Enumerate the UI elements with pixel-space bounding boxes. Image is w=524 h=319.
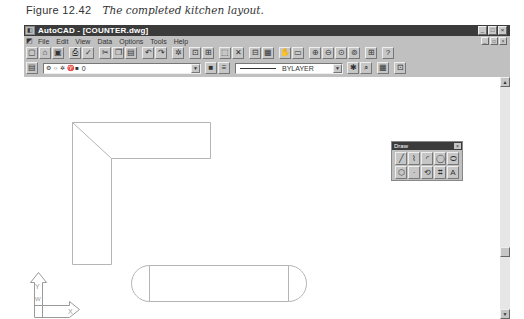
- list-icon[interactable]: ▦: [377, 62, 389, 74]
- drawing-canvas[interactable]: Y W X Draw × ╱ ⌇ ◜ ◯ ⬭ ⬡ · ⟲ ⌗ A: [24, 77, 500, 319]
- ucs-y-label: Y: [35, 283, 40, 290]
- l-counter-miter-line: [73, 123, 112, 159]
- scroll-up-button[interactable]: ▲: [500, 77, 510, 87]
- aerial-view-icon[interactable]: ⊟: [249, 47, 261, 59]
- tiled-viewports-icon[interactable]: ⊞: [365, 47, 377, 59]
- close-button[interactable]: ×: [498, 26, 507, 35]
- standard-toolbar: ▢ ⌂ ▣ ⎙ ✓ ✂ ❐ ▤ ↶ ↷ ✲ ⊡ ⊞ ⬚ ✕ ⊟ ▦ ✋ ▭ ⊕ …: [24, 46, 510, 60]
- layer-value: 0: [82, 64, 86, 73]
- inquiry-icon[interactable]: ⊡: [394, 62, 406, 74]
- layer-dropdown[interactable]: ⚙ ☼ ✲ ♈ ■ 0 ▼: [43, 63, 201, 74]
- ellipse-icon[interactable]: ⬭: [447, 152, 459, 165]
- properties-icon[interactable]: ✱: [347, 62, 359, 74]
- object-snap-icon[interactable]: ✲: [172, 47, 184, 59]
- spelling-icon[interactable]: ✓: [82, 47, 94, 59]
- point-icon[interactable]: ·: [408, 166, 420, 179]
- new-icon[interactable]: ▢: [26, 47, 38, 59]
- zoom-previous-icon[interactable]: ⊚: [348, 47, 360, 59]
- menu-options[interactable]: Options: [119, 38, 143, 45]
- island-outline: [132, 266, 307, 302]
- menu-file[interactable]: File: [38, 38, 49, 45]
- chevron-down-icon[interactable]: ▼: [191, 64, 200, 73]
- menu-edit[interactable]: Edit: [56, 38, 68, 45]
- figure-number: Figure 12.42: [26, 4, 91, 16]
- zoom-in-icon[interactable]: ⊕: [309, 47, 321, 59]
- redraw-icon[interactable]: ✕: [232, 47, 244, 59]
- match-properties-icon[interactable]: ⌕: [360, 62, 372, 74]
- maximize-button[interactable]: □: [488, 26, 497, 35]
- ucs-x-label: X: [68, 308, 73, 315]
- window-title: AutoCAD - [COUNTER.dwg]: [38, 26, 148, 35]
- figure-title: The completed kitchen layout.: [102, 4, 263, 16]
- figure-caption: Figure 12.42 The completed kitchen layou…: [26, 4, 264, 16]
- draw-toolbar-title: Draw: [394, 143, 408, 149]
- line-icon[interactable]: ╱: [395, 152, 407, 165]
- copy-icon[interactable]: ❐: [112, 47, 124, 59]
- hatch-icon[interactable]: ⌗: [434, 166, 446, 179]
- block-icon[interactable]: ⟲: [421, 166, 433, 179]
- object-properties-toolbar: ▤ ⚙ ☼ ✲ ♈ ■ 0 ▼ ■ ≡ BYLAYER ▼ ✱ ⌕ ▦ ⊡: [24, 61, 510, 75]
- layers-button[interactable]: ▤: [26, 62, 38, 74]
- named-views-icon[interactable]: ▦: [262, 47, 274, 59]
- linetype-sample: [240, 68, 276, 69]
- linetype-dropdown[interactable]: BYLAYER ▼: [235, 63, 343, 74]
- print-icon[interactable]: ⎙: [69, 47, 81, 59]
- linetype-button[interactable]: ≡: [218, 62, 230, 74]
- draw-toolbar[interactable]: Draw × ╱ ⌇ ◜ ◯ ⬭ ⬡ · ⟲ ⌗ A: [391, 141, 463, 181]
- window-controls: _ □ ×: [478, 26, 507, 35]
- scroll-thumb[interactable]: [500, 247, 510, 257]
- scroll-down-button[interactable]: ▼: [500, 309, 510, 319]
- l-counter-outline: [73, 123, 211, 265]
- point-filter-icon[interactable]: ⊡: [189, 47, 201, 59]
- document-icon[interactable]: ◩: [25, 37, 34, 45]
- text-icon[interactable]: A: [447, 166, 459, 179]
- document-controls: _ □ ×: [481, 37, 507, 45]
- layer-state-icons: ⚙ ☼ ✲ ♈ ■: [46, 64, 79, 73]
- undo-icon[interactable]: ↶: [142, 47, 154, 59]
- doc-close-button[interactable]: ×: [499, 37, 507, 45]
- pan-icon[interactable]: ✋: [279, 47, 291, 59]
- linetype-value: BYLAYER: [282, 64, 314, 73]
- kitchen-drawing: Y W X: [24, 77, 500, 319]
- arc-icon[interactable]: ◜: [421, 152, 433, 165]
- doc-minimize-button[interactable]: _: [481, 37, 489, 45]
- chevron-down-icon[interactable]: ▼: [333, 64, 342, 73]
- title-bar[interactable]: ◧ AutoCAD - [COUNTER.dwg] _ □ ×: [24, 25, 510, 36]
- menu-data[interactable]: Data: [97, 38, 112, 45]
- zoom-out-icon[interactable]: ⊖: [322, 47, 334, 59]
- open-icon[interactable]: ⌂: [39, 47, 51, 59]
- menu-tools[interactable]: Tools: [150, 38, 166, 45]
- draw-toolbar-titlebar[interactable]: Draw ×: [392, 142, 462, 150]
- polygon-icon[interactable]: ⬡: [395, 166, 407, 179]
- color-button[interactable]: ■: [205, 62, 217, 74]
- cut-icon[interactable]: ✂: [99, 47, 111, 59]
- zoom-window-icon[interactable]: ▭: [292, 47, 304, 59]
- save-icon[interactable]: ▣: [52, 47, 64, 59]
- polyline-icon[interactable]: ⌇: [408, 152, 420, 165]
- circle-icon[interactable]: ◯: [434, 152, 446, 165]
- menu-view[interactable]: View: [75, 38, 90, 45]
- menu-bar: ◩ File Edit View Data Options Tools Help…: [24, 36, 510, 46]
- zoom-all-icon[interactable]: ⊙: [335, 47, 347, 59]
- redo-icon[interactable]: ↷: [155, 47, 167, 59]
- vertical-scrollbar[interactable]: ▲ ▼: [500, 77, 510, 319]
- window-select-icon[interactable]: ⬚: [219, 47, 231, 59]
- close-icon[interactable]: ×: [454, 143, 461, 149]
- minimize-button[interactable]: _: [478, 26, 487, 35]
- help-icon[interactable]: ?: [382, 47, 394, 59]
- ucs-icon[interactable]: ⊞: [202, 47, 214, 59]
- doc-restore-button[interactable]: □: [490, 37, 498, 45]
- menu-help[interactable]: Help: [174, 38, 188, 45]
- autocad-app-icon[interactable]: ◧: [25, 26, 35, 35]
- ucs-w-label: W: [35, 296, 41, 302]
- paste-icon[interactable]: ▤: [125, 47, 137, 59]
- autocad-window: ◧ AutoCAD - [COUNTER.dwg] _ □ × ◩ File E…: [24, 25, 510, 319]
